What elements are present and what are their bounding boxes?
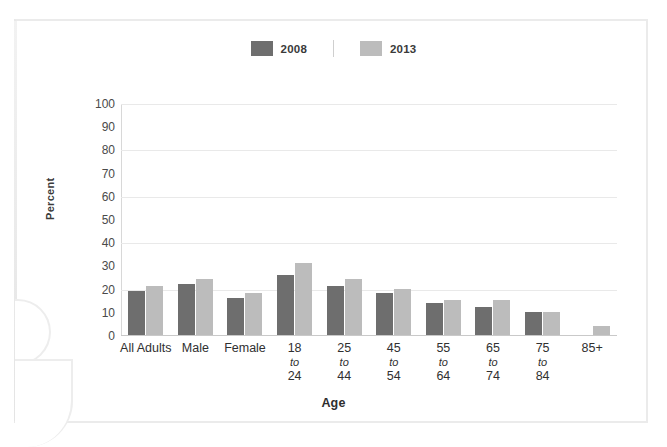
bar-2013-75-to-84 <box>543 312 560 335</box>
bar-group-all-adults <box>121 286 171 335</box>
bar-group-65-to-74 <box>468 300 518 335</box>
bar-2013-all-adults <box>146 286 163 335</box>
x-axis-line <box>121 335 617 336</box>
bar-group-55-to-64 <box>419 300 469 335</box>
bar-2008-45-to-54 <box>376 293 393 335</box>
gridline-80 <box>121 150 617 151</box>
bar-2008-female <box>227 298 244 335</box>
bar-group-18-to-24 <box>270 263 320 335</box>
bar-group-male <box>171 279 221 335</box>
legend-label-2008: 2008 <box>281 43 307 55</box>
legend-swatch-2008 <box>251 41 273 56</box>
page-notch-lower-icon <box>15 359 73 447</box>
bar-group-85 <box>567 326 617 335</box>
y-axis-tick-labels: 0102030405060708090100 <box>79 104 115 336</box>
bar-2013-45-to-54 <box>394 289 411 335</box>
x-tick-85: 85+ <box>538 341 647 355</box>
legend-label-2013: 2013 <box>390 43 416 55</box>
gridline-60 <box>121 197 617 198</box>
legend-item-2008: 2008 <box>251 41 307 56</box>
bar-2008-all-adults <box>128 291 145 335</box>
y-tick-10: 10 <box>102 306 115 320</box>
y-tick-100: 100 <box>95 97 115 111</box>
chart-legend: 2008 2013 <box>0 40 667 57</box>
bar-group-45-to-54 <box>369 289 419 335</box>
bar-2013-65-to-74 <box>493 300 510 335</box>
bar-2008-55-to-64 <box>426 303 443 335</box>
page-notch-upper-icon <box>15 299 51 365</box>
gridline-100 <box>121 104 617 105</box>
bar-2013-25-to-44 <box>345 279 362 335</box>
bar-2013-female <box>245 293 262 335</box>
y-tick-30: 30 <box>102 259 115 273</box>
x-axis-tick-labels: All AdultsMaleFemale18to2425to4445to5455… <box>121 341 617 393</box>
legend-separator <box>333 40 334 57</box>
bar-group-female <box>220 293 270 335</box>
bar-2008-75-to-84 <box>525 312 542 335</box>
legend-swatch-2013 <box>360 41 382 56</box>
bar-2008-25-to-44 <box>327 286 344 335</box>
gridline-40 <box>121 243 617 244</box>
chart-plot-area <box>121 104 617 336</box>
bar-2013-55-to-64 <box>444 300 461 335</box>
bar-2013-male <box>196 279 213 335</box>
y-tick-40: 40 <box>102 236 115 250</box>
bar-2008-18-to-24 <box>277 275 294 335</box>
bar-group-75-to-84 <box>518 312 568 335</box>
y-tick-20: 20 <box>102 283 115 297</box>
y-axis-title: Percent <box>44 178 56 220</box>
y-tick-70: 70 <box>102 167 115 181</box>
y-tick-90: 90 <box>102 120 115 134</box>
y-tick-50: 50 <box>102 213 115 227</box>
bar-2013-18-to-24 <box>295 263 312 335</box>
legend-item-2013: 2013 <box>360 41 416 56</box>
bar-2008-65-to-74 <box>475 307 492 335</box>
bar-2013-85 <box>593 326 610 335</box>
bar-group-25-to-44 <box>319 279 369 335</box>
bar-2008-male <box>178 284 195 335</box>
x-axis-title: Age <box>0 396 667 410</box>
y-tick-60: 60 <box>102 190 115 204</box>
y-tick-80: 80 <box>102 143 115 157</box>
